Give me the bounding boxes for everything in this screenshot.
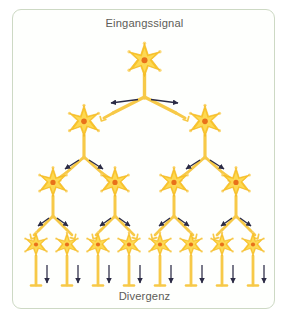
neuron-soma [86, 231, 110, 255]
figure-root: Eingangssignal Divergenz [0, 0, 289, 327]
output-axons [31, 256, 264, 286]
neuron-soma [189, 104, 221, 137]
neuron-soma [24, 231, 48, 255]
neuron-soma [100, 166, 130, 197]
neuron-soma [127, 41, 161, 76]
neuron-row-4 [24, 231, 265, 255]
neuron-row-2 [68, 104, 221, 137]
divergence-label: Divergenz [0, 290, 289, 302]
axon-level-3 [28, 196, 260, 241]
neuron-soma [221, 166, 251, 197]
signal-arrows-level-1 [111, 100, 178, 104]
neuron-soma [241, 231, 265, 255]
neuron-soma [159, 166, 189, 197]
input-signal-label: Eingangssignal [0, 17, 289, 29]
divergence-diagram [0, 0, 289, 327]
neuron-row-1 [127, 41, 161, 76]
axon-level-1 [99, 74, 191, 123]
neuron-soma [179, 231, 203, 255]
neuron-soma [68, 104, 100, 137]
neuron-soma [38, 166, 68, 197]
axon-level-2 [54, 135, 236, 184]
